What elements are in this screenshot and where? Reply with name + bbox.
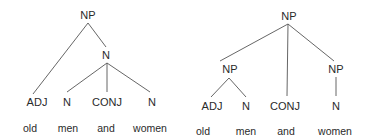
node-np-left: NP [222,64,237,75]
node-np-root: NP [281,11,296,22]
node-np: NP [80,10,95,21]
node-n-women: N [332,101,340,112]
edge-npl-adj [211,78,229,97]
node-conj: CONJ [270,101,300,112]
node-n-women: N [148,97,156,108]
edge-n-n1 [67,63,107,92]
node-adj: ADJ [27,97,48,108]
node-n: N [102,50,110,61]
word-men: men [58,123,78,134]
word-and: and [97,123,115,134]
word-and: and [277,126,295,137]
node-conj: CONJ [92,97,122,108]
edge-np-adj [33,23,88,94]
edge-np-conj [287,24,288,96]
tree-edges [0,0,372,140]
edge-np-npl [220,24,288,61]
edge-np-n [88,23,106,47]
node-n-men: N [242,101,250,112]
word-women: women [133,123,167,134]
word-old: old [196,126,210,137]
word-men: men [236,126,256,137]
edge-npl-n [229,78,246,97]
edge-n-n2 [107,63,150,92]
node-n-men: N [63,97,71,108]
word-old: old [23,123,37,134]
edge-np-npr [288,24,334,61]
node-adj: ADJ [202,101,223,112]
node-np-right: NP [328,64,343,75]
word-women: women [318,126,352,137]
